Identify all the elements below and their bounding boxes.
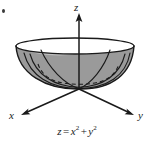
rim-ellipse: [16, 38, 134, 54]
y-axis-label: y: [138, 110, 143, 121]
equation-term2-exponent: 2: [93, 124, 97, 132]
y-axis-line: [79, 89, 130, 113]
paraboloid-figure: z x y z=x2+y2: [0, 0, 154, 159]
paraboloid-rim: [16, 38, 134, 54]
equation-lhs: z: [57, 125, 61, 137]
paraboloid-surface: [16, 46, 134, 89]
scan-artifact-speck: [2, 9, 5, 13]
equation-equals: =: [62, 125, 71, 137]
x-axis-label: x: [9, 110, 14, 121]
z-axis-label: z: [74, 2, 78, 13]
x-axis-line: [25, 89, 79, 113]
equation-caption: z=x2+y2: [0, 126, 154, 137]
equation-plus: +: [79, 125, 88, 137]
